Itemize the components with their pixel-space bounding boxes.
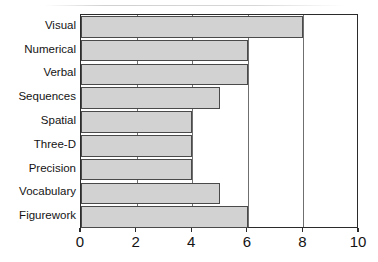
category-label-sequences: Sequences bbox=[0, 91, 76, 103]
category-label-vocabulary: Vocabulary bbox=[0, 186, 76, 198]
category-label-precision: Precision bbox=[0, 163, 76, 175]
bar-row bbox=[81, 135, 357, 157]
bar-row bbox=[81, 159, 357, 181]
bar-row bbox=[81, 64, 357, 86]
x-tick bbox=[246, 228, 247, 232]
bar-row bbox=[81, 206, 357, 228]
x-tick-label-0: 0 bbox=[76, 234, 84, 249]
x-tick bbox=[191, 228, 192, 232]
category-label-figurework: Figurework bbox=[0, 210, 76, 222]
x-tick-label-10: 10 bbox=[350, 234, 367, 249]
x-tick-label-2: 2 bbox=[131, 234, 139, 249]
category-label-three-d: Three-D bbox=[0, 139, 76, 151]
bar-spatial bbox=[81, 111, 192, 133]
bar-figurework bbox=[81, 206, 248, 228]
x-tick-label-8: 8 bbox=[298, 234, 306, 249]
bar-row bbox=[81, 183, 357, 205]
bar-row bbox=[81, 16, 357, 38]
x-tick-label-6: 6 bbox=[243, 234, 251, 249]
bar-precision bbox=[81, 159, 192, 181]
x-tick bbox=[79, 228, 80, 232]
bar-verbal bbox=[81, 64, 248, 86]
bar-sequences bbox=[81, 87, 220, 109]
x-tick bbox=[357, 228, 358, 232]
x-tick bbox=[302, 228, 303, 232]
x-tick bbox=[135, 228, 136, 232]
category-label-verbal: Verbal bbox=[0, 67, 76, 79]
category-axis-labels: VisualNumericalVerbalSequencesSpatialThr… bbox=[0, 14, 76, 228]
bar-visual bbox=[81, 16, 303, 38]
bar-three-d bbox=[81, 135, 192, 157]
category-label-numerical: Numerical bbox=[0, 44, 76, 56]
bar-chart: VisualNumericalVerbalSequencesSpatialThr… bbox=[0, 0, 378, 262]
bar-vocabulary bbox=[81, 183, 220, 205]
bar-row bbox=[81, 87, 357, 109]
x-tick-label-4: 4 bbox=[187, 234, 195, 249]
category-label-visual: Visual bbox=[0, 20, 76, 32]
plot-area bbox=[80, 14, 358, 228]
category-label-spatial: Spatial bbox=[0, 115, 76, 127]
bar-numerical bbox=[81, 40, 248, 62]
scan-artifact-line bbox=[44, 5, 344, 6]
value-axis: 0246810 bbox=[80, 228, 358, 258]
bar-row bbox=[81, 111, 357, 133]
bar-row bbox=[81, 40, 357, 62]
